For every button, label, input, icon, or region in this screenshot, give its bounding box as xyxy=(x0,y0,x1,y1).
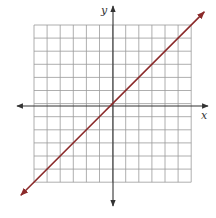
y-axis-label: y xyxy=(100,4,108,17)
coordinate-graph: y x xyxy=(0,0,216,218)
x-axis-label: x xyxy=(201,109,208,122)
